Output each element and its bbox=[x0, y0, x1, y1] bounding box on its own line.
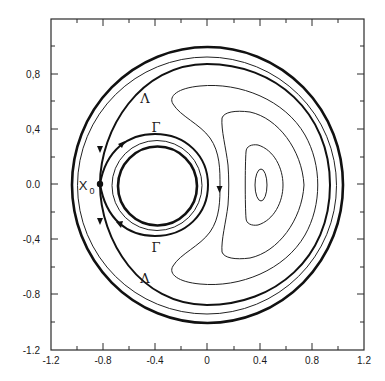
inner-cylinder-curve bbox=[118, 147, 197, 226]
phase-portrait-figure: -1.2 -0.8 -0.4 0 0.4 0.8 1.2 0,8 0,4 0.0… bbox=[0, 0, 385, 381]
y-tick-label: -1.2 bbox=[23, 345, 41, 356]
x-tick-label: 0 bbox=[204, 355, 210, 366]
inner-streamline-curve bbox=[112, 141, 202, 231]
x-tick-labels: -1.2 -0.8 -0.4 0 0.4 0.8 1.2 bbox=[42, 355, 371, 366]
label-gamma-top: Γ bbox=[151, 120, 160, 135]
y-tick-label: 0,8 bbox=[26, 69, 40, 80]
arrow-down-icon bbox=[97, 146, 103, 153]
x-tick-label: 0.4 bbox=[253, 355, 267, 366]
crescent-contour-1 bbox=[172, 85, 318, 284]
y-tick-label: -0.8 bbox=[23, 289, 41, 300]
flow-arrows bbox=[97, 141, 223, 228]
y-tick-label: -0,4 bbox=[23, 234, 41, 245]
y-tick-label: 0.0 bbox=[26, 179, 40, 190]
d-contour-3 bbox=[245, 145, 283, 225]
x-tick-label: -0.4 bbox=[146, 355, 164, 366]
arrow-down-icon bbox=[97, 218, 103, 225]
separatrix-gamma-curve bbox=[100, 134, 208, 236]
label-x0-subscript: 0 bbox=[89, 186, 94, 196]
y-tick-labels: 0,8 0,4 0.0 -0,4 -0.8 -1.2 bbox=[23, 69, 41, 356]
label-x0: X bbox=[79, 178, 88, 193]
x-tick-label: 0.8 bbox=[305, 355, 319, 366]
arrow-left-up-icon bbox=[116, 221, 123, 228]
label-gamma-bottom: Γ bbox=[151, 240, 160, 255]
stagnation-point-x0 bbox=[97, 181, 103, 187]
label-lambda-bottom: Λ bbox=[139, 271, 150, 286]
arrow-down-icon bbox=[217, 186, 223, 193]
x-tick-label: 1.2 bbox=[357, 355, 371, 366]
crescent-contour-2 bbox=[222, 111, 304, 259]
y-tick-label: 0,4 bbox=[26, 124, 40, 135]
separatrix-lambda-curve bbox=[100, 64, 330, 305]
vortex-core-curve bbox=[255, 169, 267, 201]
x-tick-label: -0.8 bbox=[94, 355, 112, 366]
label-lambda-top: Λ bbox=[139, 91, 150, 106]
x-tick-label: -1.2 bbox=[42, 355, 60, 366]
